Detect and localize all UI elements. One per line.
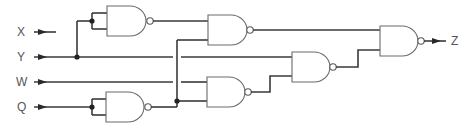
input-arrow-x xyxy=(34,29,56,35)
wire-g4-vertical xyxy=(174,40,208,107)
wire-y-to-g1 xyxy=(74,13,107,60)
nand-gate-2 xyxy=(208,15,380,45)
nand-gate-5 xyxy=(207,76,292,107)
output-arrow xyxy=(432,38,441,44)
logic-circuit-diagram: X Y W Q Z xyxy=(0,0,473,129)
circuit-canvas xyxy=(0,0,473,129)
junction-dot xyxy=(89,18,94,23)
junction-dot xyxy=(74,54,79,59)
nand-gate-1 xyxy=(107,6,208,36)
output-label-z: Z xyxy=(451,35,458,47)
wire-q-to-g4 xyxy=(89,99,106,115)
input-arrow-q xyxy=(34,104,92,110)
input-label-y: Y xyxy=(17,51,25,63)
input-label-w: W xyxy=(16,76,27,88)
input-label-q: Q xyxy=(17,101,26,113)
input-arrow-y xyxy=(34,54,292,60)
nand-gate-4 xyxy=(106,92,177,122)
junction-dot xyxy=(89,104,94,109)
input-label-x: X xyxy=(17,26,25,38)
input-arrow-w xyxy=(34,79,207,85)
junction-dot xyxy=(174,98,179,103)
nand-gate-3 xyxy=(292,50,380,82)
nand-gate-6 xyxy=(380,26,446,56)
